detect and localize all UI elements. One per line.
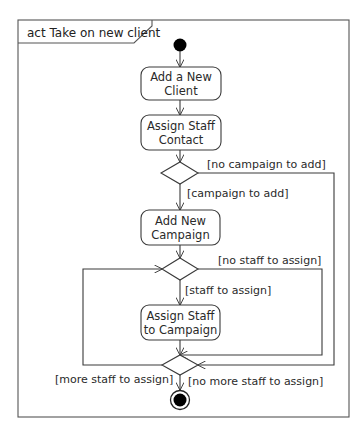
action-assign-staff-to-campaign: Assign Staff to Campaign — [141, 305, 220, 340]
guard-campaign: [campaign to add] — [187, 187, 289, 200]
final-node — [171, 391, 190, 410]
guard-no-more-staff: [no more staff to assign] — [188, 375, 323, 388]
initial-node — [174, 39, 187, 52]
action-label-line2: to Campaign — [144, 323, 218, 337]
action-label-line1: Add New — [155, 214, 206, 228]
action-label-line2: Client — [164, 84, 198, 98]
guard-staff: [staff to assign] — [185, 284, 271, 297]
guard-more-staff: [more staff to assign] — [55, 373, 173, 386]
action-assign-staff-contact: Assign Staff Contact — [141, 115, 221, 150]
guard-no-campaign: [no campaign to add] — [207, 158, 326, 171]
action-label-line1: Assign Staff — [146, 309, 215, 323]
decision-more-staff — [162, 355, 198, 375]
action-add-new-client: Add a New Client — [141, 67, 221, 100]
activity-diagram: act Take on new client Add a New Client … — [0, 0, 364, 432]
frame-title: act Take on new client — [27, 26, 161, 40]
action-add-new-campaign: Add New Campaign — [141, 210, 220, 245]
action-label-line1: Add a New — [150, 70, 212, 84]
decision-staff — [162, 258, 198, 280]
action-label-line2: Contact — [159, 133, 204, 147]
action-label-line2: Campaign — [151, 228, 209, 242]
decision-campaign — [161, 162, 198, 184]
guard-no-staff: [no staff to assign] — [218, 254, 321, 267]
action-label-line1: Assign Staff — [147, 119, 216, 133]
